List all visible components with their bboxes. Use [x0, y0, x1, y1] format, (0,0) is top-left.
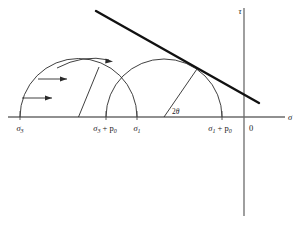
- shift-arrow-lower: [22, 95, 52, 100]
- angle-2theta-symbol: θ: [176, 107, 180, 116]
- tau-axis-label: τ: [238, 6, 242, 16]
- arrow-head-icon: [60, 76, 67, 81]
- mohr-diagram-canvas: 2θ τ σ 0 σ3 σ3 + p0 σ1 σ1 + p0: [0, 0, 305, 227]
- tick-label-sigma3: σ3: [16, 123, 23, 134]
- mohr-circle-figure: 2θ τ σ 0 σ3 σ3 + p0 σ1 σ1 + p0: [0, 0, 305, 227]
- tick-label-sigma3-plus-p0: σ3 + p0: [93, 123, 117, 134]
- tick-label-sigma1-plus-p0: σ1 + p0: [208, 123, 232, 134]
- shift-arrow-middle: [38, 76, 67, 81]
- angle-2theta-group: 2θ: [172, 107, 180, 116]
- tick-label-sigma1: σ1: [133, 123, 140, 134]
- failure-envelope-line: [96, 11, 259, 103]
- origin-label: 0: [249, 123, 253, 133]
- pore-pressure-arrows-group: [22, 58, 113, 100]
- initial-circle-radius-line: [79, 67, 100, 117]
- initial-circle-group: [20, 59, 137, 121]
- shifted-circle-arc: [106, 59, 222, 117]
- angle-2theta-label: 2θ: [172, 107, 180, 116]
- shifted-circle-radius-line: [164, 69, 197, 117]
- arrow-head-icon: [45, 95, 52, 100]
- sigma-axis-label: σ: [288, 112, 293, 122]
- initial-circle-arc: [20, 59, 137, 118]
- shifted-circle-group: [106, 59, 222, 120]
- arrow-head-icon: [105, 58, 113, 63]
